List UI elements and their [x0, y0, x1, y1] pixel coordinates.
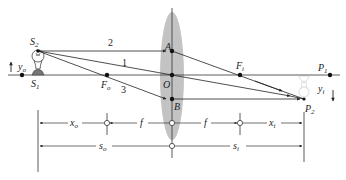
label-ray-3: 3: [121, 84, 126, 95]
label-fo: Fo: [100, 79, 111, 92]
label-f-right: f: [204, 117, 208, 128]
light-bulb-object-icon: [32, 50, 44, 75]
label-ray-1: 1: [122, 57, 127, 68]
label-s2: S2: [30, 36, 39, 49]
tick-circle: [237, 120, 242, 125]
label-yo: yo: [17, 61, 26, 74]
label-so: so: [99, 140, 107, 153]
label-o: O: [163, 79, 170, 90]
label-ray-2: 2: [108, 37, 113, 48]
label-si: si: [233, 140, 239, 153]
point-fi: [238, 73, 242, 77]
label-a: A: [164, 41, 172, 52]
tick-circle: [169, 143, 174, 148]
point-s2: [36, 49, 40, 53]
label-p2: P2: [304, 103, 315, 116]
label-b: B: [174, 101, 180, 112]
point-p1: [328, 73, 332, 77]
label-f-left: f: [140, 117, 144, 128]
label-xo: xo: [69, 117, 78, 130]
label-yi: yi: [317, 83, 324, 96]
label-xi: xi: [268, 117, 275, 130]
inverted-bulb-image-icon: [299, 76, 309, 97]
label-s1: S1: [31, 78, 40, 91]
point-p2: [302, 97, 305, 100]
lens-ray-diagram: S2 S1 yo 2 1 3 Fo Fi A O B P1 P2 yi xo f…: [0, 0, 346, 180]
label-fi: Fi: [235, 60, 244, 73]
point-fo: [105, 73, 109, 77]
tick-circle: [104, 120, 109, 125]
tick-circle: [169, 120, 174, 125]
label-p1: P1: [317, 62, 328, 75]
point-o: [170, 73, 174, 77]
